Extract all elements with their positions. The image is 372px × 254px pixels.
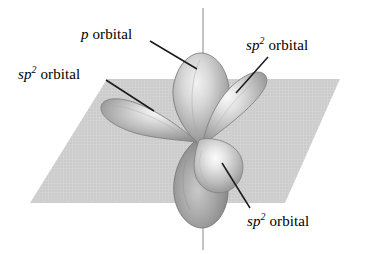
- label-sp2-right-symbol: sp: [246, 37, 260, 53]
- label-p-orbital: p orbital: [81, 27, 132, 42]
- label-sp2-orbital-left: sp2 orbital: [18, 67, 80, 82]
- label-sp2-left-suffix: orbital: [37, 66, 81, 82]
- label-p-orbital-symbol: p: [81, 26, 89, 42]
- label-sp2-front-suffix: orbital: [266, 213, 310, 229]
- label-sp2-right-suffix: orbital: [265, 37, 309, 53]
- orbital-diagram-figure: p orbital sp2 orbital sp2 orbital sp2 or…: [0, 0, 372, 254]
- label-sp2-orbital-right: sp2 orbital: [246, 38, 308, 53]
- leader-p-orbital: [150, 41, 197, 69]
- label-sp2-front-symbol: sp: [247, 213, 261, 229]
- label-sp2-left-symbol: sp: [18, 66, 32, 82]
- label-p-orbital-suffix: orbital: [89, 26, 133, 42]
- label-sp2-orbital-front: sp2 orbital: [247, 214, 309, 229]
- orbital-diagram-canvas: [0, 0, 372, 254]
